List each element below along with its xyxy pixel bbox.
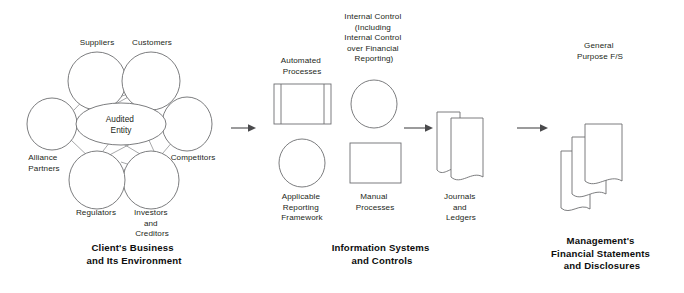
label-journals-and-ledgers: Journals and Ledgers <box>444 192 478 222</box>
label-general-purpose-fs: General Purpose F/S <box>577 41 624 61</box>
journals-doc-front <box>451 118 483 180</box>
network-node-alliance-partners <box>27 98 77 150</box>
information-systems-group: Automated Processes Internal Control (In… <box>274 12 483 222</box>
shape-journals-and-ledgers <box>437 112 483 180</box>
arrow-head-2 <box>425 124 433 131</box>
shape-internal-control <box>351 80 397 128</box>
network-node-suppliers <box>68 52 126 110</box>
shape-manual-processes <box>350 143 401 183</box>
label-competitors: Competitors <box>171 153 216 162</box>
management-statements-group: General Purpose F/S <box>561 41 624 211</box>
label-internal-control: Internal Control (Including Internal Con… <box>344 12 403 63</box>
label-alliance-partners: Alliance Partners <box>28 153 60 173</box>
network-node-competitors <box>162 97 212 151</box>
caption-client-business: Client's Business and Its Environment <box>86 242 182 266</box>
network-node-audited-entity <box>76 103 166 145</box>
label-manual-processes: Manual Processes <box>356 192 395 212</box>
caption-management-statements: Management's Financial Statements and Di… <box>551 235 653 271</box>
label-suppliers: Suppliers <box>80 38 115 47</box>
shape-applicable-reporting-framework <box>279 139 325 187</box>
arrow-systems-to-statements <box>517 124 548 131</box>
label-investors-creditors: Investors and Creditors <box>134 208 170 238</box>
diagram-canvas: Suppliers Customers Competitors Investor… <box>0 0 684 293</box>
label-applicable-reporting-framework: Applicable Reporting Framework <box>281 192 323 222</box>
arrow-head-1 <box>248 124 256 131</box>
network-node-regulators <box>69 151 125 209</box>
network-node-customers <box>122 52 180 110</box>
arrow-processes-to-journals <box>404 124 433 131</box>
automated-processes-body <box>274 84 331 124</box>
caption-information-systems: Information Systems and Controls <box>332 242 433 266</box>
shape-general-purpose-fs <box>561 124 622 211</box>
client-business-network: Suppliers Customers Competitors Investor… <box>27 38 215 238</box>
label-regulators: Regulators <box>76 208 116 217</box>
label-automated-processes: Automated Processes <box>281 56 323 76</box>
fs-doc-front <box>585 124 622 184</box>
arrow-head-3 <box>540 124 548 131</box>
label-customers: Customers <box>132 38 172 47</box>
audit-process-diagram: Suppliers Customers Competitors Investor… <box>0 0 684 293</box>
arrow-business-to-systems <box>231 124 256 131</box>
shape-automated-processes <box>274 84 331 124</box>
